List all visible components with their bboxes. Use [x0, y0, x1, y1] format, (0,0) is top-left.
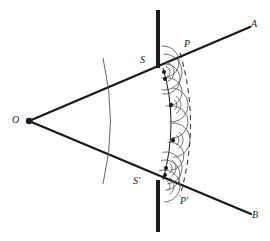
- wavelet-center-dot-2: [163, 77, 167, 81]
- wavelet-detail-arc-2: [166, 66, 170, 77]
- source-point-o: [26, 118, 32, 124]
- ray-a: [29, 27, 250, 121]
- label-point-o: O: [12, 115, 19, 125]
- label-new-wavefront-p-prime: P': [180, 196, 188, 206]
- wavefront-group: [103, 53, 191, 196]
- huygens-diagram: O A B S S' P P': [0, 0, 270, 241]
- wavelet-center-dot-5: [164, 166, 168, 170]
- wavelet-center-dot-4: [171, 138, 175, 142]
- label-ray-a: A: [251, 19, 257, 29]
- label-ray-b: B: [252, 210, 258, 220]
- wavelet-center-dot-3: [169, 103, 173, 107]
- source-point-group: [26, 118, 32, 124]
- barrier-group: [156, 10, 160, 232]
- diagram-canvas: [0, 0, 270, 241]
- wavelet-center-dot-6: [163, 173, 167, 177]
- ray-b: [29, 121, 251, 214]
- label-wavefront-s-prime: S': [133, 176, 140, 186]
- incident-wavefront-arc: [103, 58, 111, 184]
- barrier-upper-segment: [156, 10, 160, 68]
- barrier-lower-segment: [156, 180, 160, 232]
- label-wavefront-s: S: [140, 55, 145, 65]
- wavelet-detail-arc-4: [174, 100, 177, 110]
- secondary-wavelet-11: [159, 170, 180, 202]
- label-new-wavefront-p: P: [184, 39, 190, 49]
- wavelet-center-dot-1: [162, 70, 166, 74]
